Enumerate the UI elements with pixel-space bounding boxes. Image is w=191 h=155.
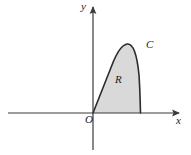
x-axis-label: x — [176, 115, 181, 126]
curve-c-label: C — [146, 39, 153, 50]
origin-label: O — [85, 114, 93, 125]
math-figure: y x O C R — [0, 0, 191, 155]
figure-canvas — [0, 0, 191, 155]
region-r-label: R — [115, 74, 122, 85]
y-axis-label: y — [81, 1, 86, 12]
